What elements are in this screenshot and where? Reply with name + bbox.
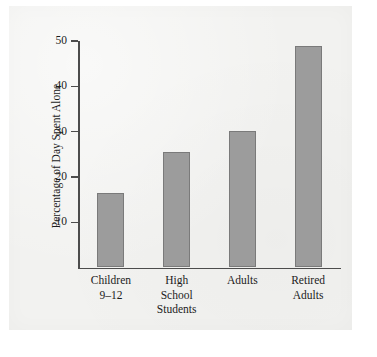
y-tick-10 [71,222,78,223]
bar-2 [229,131,256,268]
y-tick-20 [71,176,78,177]
bar-3 [295,46,322,268]
y-tick-40 [71,86,78,87]
y-tick-label-10: 10 [45,216,67,228]
y-tick-label-20: 20 [45,171,67,183]
plot-area: Percentage of Day Spent Alone 1020304050… [0,0,377,357]
bar-1 [163,152,190,268]
y-tick-30 [71,131,78,132]
y-tick-label-40: 40 [45,80,67,92]
category-label-line: Adults [268,288,348,303]
figure: Percentage of Day Spent Alone 1020304050… [0,0,377,357]
y-tick-label-50: 50 [45,35,67,47]
category-label-line: School [137,288,217,303]
x-axis-line [78,268,341,270]
category-label-3: RetiredAdults [268,273,348,302]
bar-0 [97,193,124,268]
category-label-line: Students [137,302,217,317]
y-tick-label-30: 30 [45,126,67,138]
y-axis-line [78,41,80,269]
category-label-line: Retired [268,273,348,288]
y-tick-50 [71,40,78,41]
